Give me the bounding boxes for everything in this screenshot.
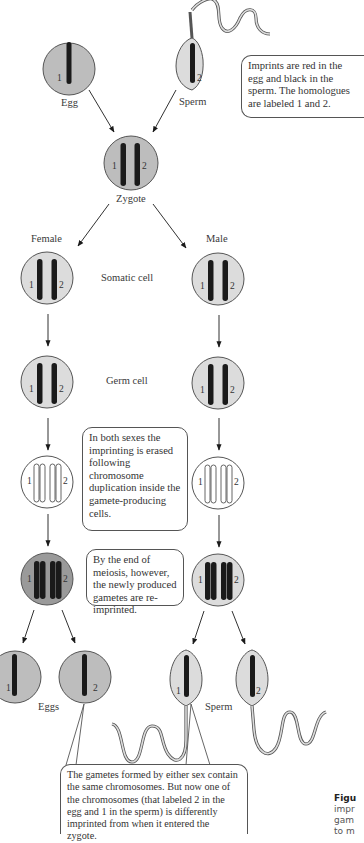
male-germ-cell bbox=[192, 357, 244, 409]
imprint-legend-note: Imprints are red in the egg and black in… bbox=[241, 55, 364, 118]
somatic-cell-label: Somatic cell bbox=[101, 272, 153, 283]
female-somatic-homolog-1: 1 bbox=[29, 280, 34, 290]
female-erased-homolog-1: 1 bbox=[27, 476, 32, 486]
pointer-egg-2 bbox=[66, 704, 84, 765]
female-column-label: Female bbox=[31, 233, 62, 244]
arrow-to-sperm-2 bbox=[232, 611, 245, 644]
egg-homolog-label: 1 bbox=[57, 73, 62, 83]
male-reimprinted-homolog-2: 2 bbox=[234, 575, 239, 585]
erased-note: In both sexes the imprinting is erased f… bbox=[82, 427, 188, 531]
arrow-sperm-to-zygote bbox=[153, 90, 176, 132]
caption-line-2: impr bbox=[334, 804, 355, 814]
eggs-label: Eggs bbox=[38, 701, 59, 712]
gametes-summary-note: The gametes formed by either sex contain… bbox=[60, 764, 248, 834]
male-reimprinted-homolog-1: 1 bbox=[198, 575, 203, 585]
egg-cell bbox=[43, 42, 95, 95]
arrow-egg-to-zygote bbox=[89, 90, 114, 132]
male-somatic-homolog-2: 2 bbox=[230, 281, 235, 291]
zygote-label: Zygote bbox=[116, 193, 146, 204]
male-column-label: Male bbox=[206, 233, 228, 244]
sperm-homolog-label: 2 bbox=[197, 73, 202, 83]
caption-line-1: Figu bbox=[334, 793, 356, 803]
female-germ-homolog-2: 2 bbox=[59, 384, 64, 394]
male-somatic-cell bbox=[192, 253, 244, 305]
male-somatic-homolog-1: 1 bbox=[200, 281, 205, 291]
arrow-zygote-to-male bbox=[153, 204, 186, 248]
germ-cell-label: Germ cell bbox=[106, 375, 148, 386]
egg-gamete-2 bbox=[59, 651, 111, 703]
reimprinted-note: By the end of meiosis, however, the newl… bbox=[86, 549, 184, 606]
egg-gamete-2-homolog: 2 bbox=[93, 683, 98, 693]
caption-line-4: to m bbox=[334, 826, 355, 836]
arrow-to-sperm-1 bbox=[193, 611, 204, 644]
figure-caption: Figu impr gam to m bbox=[334, 793, 356, 837]
sperm-gamete-2-homolog: 2 bbox=[256, 686, 261, 696]
pointer-sperm-1b bbox=[191, 704, 210, 765]
zygote-homolog-1: 1 bbox=[112, 161, 117, 171]
egg-label: Egg bbox=[61, 97, 78, 108]
zygote-homolog-2: 2 bbox=[142, 161, 147, 171]
pointer-egg-2b bbox=[76, 704, 84, 765]
female-reimprinted-homolog-1: 1 bbox=[27, 574, 32, 584]
male-erased-homolog-2: 2 bbox=[234, 477, 239, 487]
sperm-gamete-2 bbox=[236, 650, 326, 754]
female-somatic-cell bbox=[21, 252, 73, 304]
female-erased-homolog-2: 2 bbox=[63, 476, 68, 486]
male-germ-homolog-2: 2 bbox=[230, 385, 235, 395]
caption-line-3: gam bbox=[334, 815, 354, 825]
sperm-label: Sperm bbox=[179, 96, 206, 107]
sperm-gamete-1 bbox=[112, 650, 202, 762]
sperm-gamete-1-homolog: 1 bbox=[176, 686, 181, 696]
arrow-to-egg-1 bbox=[23, 610, 34, 643]
male-erased-homolog-1: 1 bbox=[198, 477, 203, 487]
sperm-gametes-label: Sperm bbox=[205, 701, 232, 712]
arrow-zygote-to-female bbox=[78, 204, 109, 246]
female-germ-homolog-1: 1 bbox=[29, 384, 34, 394]
female-somatic-homolog-2: 2 bbox=[59, 280, 64, 290]
egg-gamete-1 bbox=[0, 651, 41, 703]
female-germ-cell bbox=[21, 356, 73, 408]
male-germ-homolog-1: 1 bbox=[200, 385, 205, 395]
egg-gamete-1-homolog: 1 bbox=[6, 683, 11, 693]
female-reimprinted-homolog-2: 2 bbox=[63, 574, 68, 584]
arrow-to-egg-2 bbox=[62, 610, 75, 643]
